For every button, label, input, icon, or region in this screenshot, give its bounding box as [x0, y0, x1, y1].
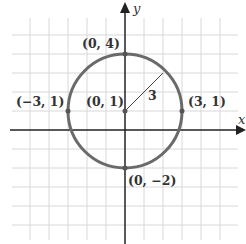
axes	[10, 10, 238, 244]
label-point-3-1: (3, 1)	[188, 94, 226, 109]
coordinate-plane: x y (0, 4) (−3, 1) (0, 1) (3, 1) (0, −2)…	[0, 0, 246, 244]
point-3-1	[180, 109, 185, 114]
label-point-0-neg2: (0, −2)	[128, 173, 176, 188]
point-0-neg2	[123, 166, 128, 171]
point-0-1	[123, 109, 128, 114]
point-0-4	[123, 52, 128, 57]
x-axis-label: x	[238, 112, 246, 127]
point-neg3-1	[66, 109, 71, 114]
label-point-0-1: (0, 1)	[86, 94, 124, 109]
label-point-0-4: (0, 4)	[82, 36, 120, 51]
y-axis-label: y	[132, 1, 141, 16]
y-axis-arrow-icon	[120, 2, 130, 13]
radius-label: 3	[148, 88, 157, 103]
label-point-neg3-1: (−3, 1)	[16, 94, 64, 109]
